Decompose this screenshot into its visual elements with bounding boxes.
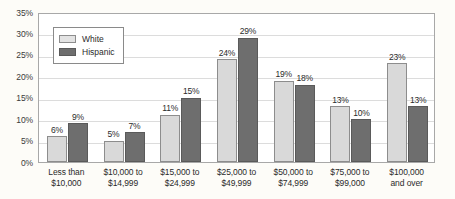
x-axis-category-line: and over — [378, 178, 435, 189]
y-axis-tick-label: 25% — [16, 51, 33, 60]
y-axis-tick-label: 0% — [21, 159, 33, 168]
plot-area: 6%9%5%7%11%15%24%29%19%18%13%10%23%13% W… — [38, 13, 435, 163]
x-axis-category-line: $14,999 — [95, 178, 152, 189]
bar-hispanic — [68, 123, 88, 162]
bar-white — [160, 115, 180, 162]
bar-value-label: 6% — [43, 126, 71, 135]
bar-group: 23%13% — [379, 14, 436, 162]
bar-value-label: 29% — [234, 27, 262, 36]
bar-hispanic — [408, 106, 428, 162]
x-axis-category-line: $24,999 — [151, 178, 208, 189]
bar-value-label: 24% — [213, 49, 241, 58]
x-axis-category-line: $50,000 to — [265, 167, 322, 178]
bar-value-label: 13% — [404, 96, 432, 105]
bar-white — [387, 63, 407, 162]
x-axis-category-line: $15,000 to — [151, 167, 208, 178]
bar-white — [217, 59, 237, 162]
bar-group: 11%15% — [152, 14, 209, 162]
x-axis-category-line: $49,999 — [208, 178, 265, 189]
bar-hispanic — [295, 85, 315, 162]
bar-value-label: 15% — [177, 87, 205, 96]
bar-hispanic — [181, 98, 201, 162]
bar-value-label: 7% — [121, 122, 149, 131]
x-axis: Less than$10,000$10,000 to$14,999$15,000… — [38, 164, 435, 196]
bar-value-label: 13% — [326, 96, 354, 105]
bar-value-label: 18% — [291, 74, 319, 83]
x-axis-category-line: $75,000 to — [322, 167, 379, 178]
bar-white — [47, 136, 67, 162]
bar-hispanic — [351, 119, 371, 162]
y-axis-tick-label: 5% — [21, 137, 33, 146]
bar-value-label: 11% — [156, 104, 184, 113]
bar-white — [104, 141, 124, 162]
y-axis-tick-label: 15% — [16, 94, 33, 103]
x-axis-category-label: Less than$10,000 — [38, 167, 95, 189]
chart-legend: White Hispanic — [53, 27, 124, 64]
y-axis: 0%5%10%15%20%25%30%35% — [0, 0, 36, 199]
x-axis-category-label: $25,000 to$49,999 — [208, 167, 265, 189]
bar-value-label: 23% — [383, 53, 411, 62]
legend-swatch-white-icon — [59, 35, 76, 43]
x-axis-category-label: $100,000and over — [378, 167, 435, 189]
bar-hispanic — [125, 132, 145, 162]
legend-item-hispanic: Hispanic — [59, 46, 115, 58]
x-axis-category-line: $10,000 to — [95, 167, 152, 178]
x-axis-category-line: $100,000 — [378, 167, 435, 178]
x-axis-category-label: $75,000 to$99,000 — [322, 167, 379, 189]
bar-value-label: 9% — [64, 113, 92, 122]
y-axis-tick-label: 35% — [16, 9, 33, 18]
x-axis-category-line: $74,999 — [265, 178, 322, 189]
y-axis-tick-label: 20% — [16, 73, 33, 82]
bar-hispanic — [238, 38, 258, 162]
bar-group: 19%18% — [266, 14, 323, 162]
bar-value-label: 5% — [100, 130, 128, 139]
legend-label-hispanic: Hispanic — [82, 48, 115, 57]
legend-label-white: White — [82, 35, 104, 44]
x-axis-category-line: $10,000 — [38, 178, 95, 189]
legend-item-white: White — [59, 33, 115, 45]
x-axis-category-line: $25,000 to — [208, 167, 265, 178]
grouped-bar-chart: 0%5%10%15%20%25%30%35% 6%9%5%7%11%15%24%… — [0, 0, 455, 199]
bar-white — [274, 81, 294, 162]
x-axis-category-label: $15,000 to$24,999 — [151, 167, 208, 189]
x-axis-category-label: $10,000 to$14,999 — [95, 167, 152, 189]
bar-value-label: 10% — [347, 109, 375, 118]
bar-group: 24%29% — [209, 14, 266, 162]
y-axis-tick-label: 30% — [16, 30, 33, 39]
legend-swatch-hispanic-icon — [59, 48, 76, 56]
x-axis-category-line: Less than — [38, 167, 95, 178]
bar-group: 13%10% — [323, 14, 380, 162]
x-axis-category-line: $99,000 — [322, 178, 379, 189]
x-axis-category-label: $50,000 to$74,999 — [265, 167, 322, 189]
y-axis-tick-label: 10% — [16, 116, 33, 125]
